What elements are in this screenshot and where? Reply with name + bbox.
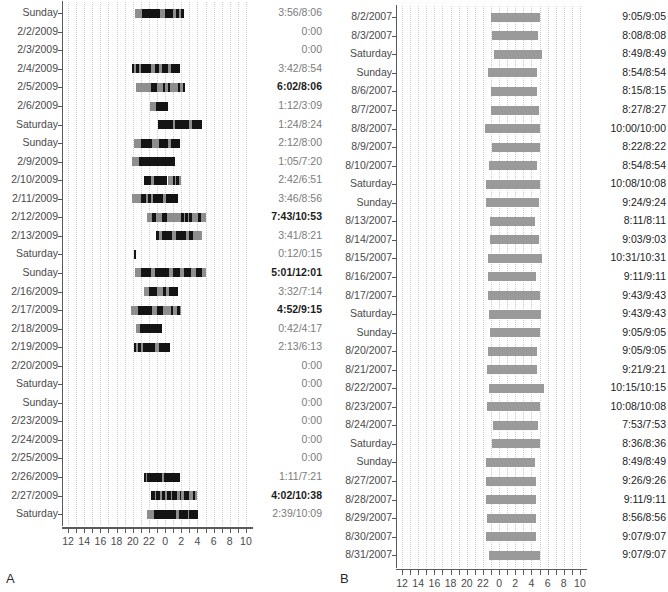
activity-segment bbox=[488, 272, 537, 281]
activity-segment bbox=[159, 139, 169, 148]
y-axis-tick bbox=[58, 32, 63, 33]
activity-segment bbox=[134, 250, 136, 259]
x-axis-tick bbox=[238, 528, 239, 533]
row-value: 4:52/9:15 bbox=[277, 303, 322, 315]
row-label: Sunday bbox=[22, 396, 58, 408]
row-label: 8/17/2007 bbox=[345, 289, 392, 301]
activity-segment bbox=[167, 213, 182, 222]
y-axis-tick bbox=[58, 199, 63, 200]
y-axis-tick bbox=[58, 236, 63, 237]
x-axis-label: 4 bbox=[195, 535, 201, 547]
row-label: 2/9/2009 bbox=[17, 155, 58, 167]
row-label: 2/3/2009 bbox=[17, 43, 58, 55]
x-axis-tick bbox=[141, 528, 142, 533]
x-axis-tick bbox=[459, 570, 460, 575]
row-label: 8/8/2007 bbox=[351, 122, 392, 134]
x-axis-label: 2 bbox=[178, 535, 184, 547]
row-label: 8/15/2007 bbox=[345, 251, 392, 263]
row-value: 0:00 bbox=[302, 414, 322, 426]
x-axis-label: 10 bbox=[240, 535, 252, 547]
row-label: 8/20/2007 bbox=[345, 344, 392, 356]
y-axis-tick bbox=[58, 366, 63, 367]
activity-segment bbox=[156, 102, 168, 111]
activity-segment bbox=[164, 473, 179, 482]
activity-segment bbox=[132, 194, 141, 203]
x-axis-label: 22 bbox=[143, 535, 155, 547]
activity-segment bbox=[486, 198, 539, 207]
activity-segment bbox=[166, 194, 178, 203]
y-axis-tick bbox=[392, 240, 397, 241]
gridline-vertical bbox=[442, 6, 444, 567]
x-axis-label: 6 bbox=[545, 577, 551, 589]
gridline-vertical bbox=[197, 2, 199, 525]
activity-segment bbox=[494, 50, 542, 59]
row-label: 2/16/2009 bbox=[11, 285, 58, 297]
row-value: 1:12/3:09 bbox=[278, 99, 322, 111]
y-axis-tick bbox=[58, 292, 63, 293]
x-axis-tick bbox=[434, 570, 435, 575]
x-axis-tick bbox=[556, 570, 557, 575]
row-label: 8/31/2007 bbox=[345, 548, 392, 560]
x-axis-tick bbox=[100, 528, 101, 533]
activity-segment bbox=[493, 421, 538, 430]
row-label: 8/6/2007 bbox=[351, 84, 392, 96]
activity-segment bbox=[488, 291, 540, 300]
row-label: 2/13/2009 bbox=[11, 229, 58, 241]
row-value: 9:05/9:05 bbox=[622, 10, 666, 22]
activity-segment bbox=[492, 143, 540, 152]
x-axis-tick bbox=[117, 528, 118, 533]
y-axis-tick bbox=[58, 254, 63, 255]
y-axis-tick bbox=[392, 203, 397, 204]
y-axis-tick bbox=[392, 555, 397, 556]
gridline-vertical bbox=[157, 2, 159, 525]
y-axis-tick bbox=[58, 310, 63, 311]
y-axis-tick bbox=[392, 481, 397, 482]
gridline-vertical bbox=[467, 6, 469, 567]
row-label: 2/25/2009 bbox=[11, 451, 58, 463]
row-label: 2/27/2009 bbox=[11, 489, 58, 501]
activity-segment bbox=[202, 268, 206, 277]
row-label: Sunday bbox=[356, 455, 392, 467]
gridline-vertical bbox=[68, 2, 70, 525]
x-axis-label: 16 bbox=[429, 577, 441, 589]
gridline-vertical bbox=[181, 2, 183, 525]
row-value: 9:11/9:11 bbox=[624, 270, 666, 282]
y-axis-tick bbox=[392, 73, 397, 74]
x-axis-tick bbox=[580, 570, 581, 575]
row-value: 3:56/8:06 bbox=[278, 6, 322, 18]
activity-segment bbox=[155, 268, 169, 277]
row-label: 8/22/2007 bbox=[345, 381, 392, 393]
x-axis-tick bbox=[531, 570, 532, 575]
gridline-vertical bbox=[548, 6, 550, 567]
row-label: 8/14/2007 bbox=[345, 233, 392, 245]
row-label: 8/10/2007 bbox=[345, 159, 392, 171]
gridline-vertical bbox=[149, 2, 151, 525]
activity-segment bbox=[488, 68, 537, 77]
row-value: 9:05/9:05 bbox=[622, 344, 666, 356]
activity-segment bbox=[491, 106, 539, 115]
y-axis-tick bbox=[392, 54, 397, 55]
row-label: Sunday bbox=[22, 266, 58, 278]
gridline-vertical bbox=[475, 6, 477, 567]
y-axis-tick bbox=[58, 384, 63, 385]
x-axis-tick bbox=[173, 528, 174, 533]
activity-segment bbox=[489, 161, 538, 170]
row-value: 0:00 bbox=[302, 43, 322, 55]
row-value: 0:00 bbox=[302, 377, 322, 389]
row-value: 8:15/8:15 bbox=[622, 84, 666, 96]
row-label: 2/5/2009 bbox=[17, 80, 58, 92]
y-axis-tick bbox=[58, 477, 63, 478]
x-axis-label: 10 bbox=[574, 577, 586, 589]
row-value: 9:43/9:43 bbox=[622, 289, 666, 301]
row-label: 2/26/2009 bbox=[11, 470, 58, 482]
activity-segment bbox=[140, 324, 162, 333]
row-value: 1:05/7:20 bbox=[278, 155, 322, 167]
activity-segment bbox=[486, 458, 535, 467]
gridline-vertical bbox=[410, 6, 412, 567]
x-axis-label: 16 bbox=[95, 535, 107, 547]
panel-b-letter: B bbox=[340, 571, 349, 586]
row-label: 8/21/2007 bbox=[345, 363, 392, 375]
x-axis-tick bbox=[165, 528, 166, 533]
row-value: 9:07/9:07 bbox=[622, 530, 666, 542]
x-axis-tick bbox=[149, 528, 150, 533]
